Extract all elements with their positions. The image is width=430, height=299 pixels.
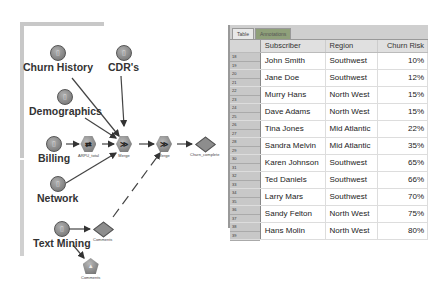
database-source-icon: ▯ <box>50 45 66 61</box>
database-source-icon: ▯ <box>46 136 62 152</box>
column-header-subscriber[interactable]: Subscriber <box>261 40 326 52</box>
cell-churn-risk: 10% <box>378 53 428 69</box>
source-node-churn-history[interactable]: ▯ Churn History <box>23 45 93 73</box>
table-row[interactable]: 2829Sandra MelvinMid Atlantic35% <box>230 138 428 155</box>
row-numbers: 3637 <box>230 206 261 222</box>
source-node-demographics[interactable]: ▯ Demographics <box>29 89 102 117</box>
cell-subscriber: Hans Molin <box>261 223 326 239</box>
cell-churn-risk: 80% <box>378 223 428 239</box>
table-row[interactable]: 1819John SmithSouthwest10% <box>230 53 428 70</box>
model-node-comments[interactable]: Comments <box>93 222 112 242</box>
row-numbers: 3839 <box>230 223 261 239</box>
cell-subscriber: Tina Jones <box>261 121 326 137</box>
merge-node-2[interactable]: ≫ Merge <box>156 136 172 158</box>
table-output-window: Table Annotations Subscriber Region Chur… <box>228 25 428 228</box>
cell-region: Mid Atlantic <box>326 138 379 154</box>
cell-region: Southwest <box>326 70 379 86</box>
cell-region: North West <box>326 104 379 120</box>
cell-subscriber: Karen Johnson <box>261 155 326 171</box>
source-node-cdrs[interactable]: ▯ CDR's <box>108 45 139 73</box>
cell-churn-risk: 15% <box>378 87 428 103</box>
cell-churn-risk: 65% <box>378 155 428 171</box>
cell-region: North West <box>326 206 379 222</box>
table-row[interactable]: 3435Larry MarsSouthwest70% <box>230 189 428 206</box>
column-header-churn-risk[interactable]: Churn Risk <box>378 40 428 52</box>
row-numbers: 3233 <box>230 172 261 188</box>
tab-table[interactable]: Table <box>232 28 254 39</box>
cell-region: Southwest <box>326 155 379 171</box>
table-row[interactable]: 3637Sandy FeltonNorth West75% <box>230 206 428 223</box>
table-row[interactable]: 2021Jane DoeSouthwest12% <box>230 70 428 87</box>
cell-subscriber: Dave Adams <box>261 104 326 120</box>
model-nugget-icon <box>95 222 111 236</box>
row-numbers: 3031 <box>230 155 261 171</box>
table-row[interactable]: 3839Hans MolinNorth West80% <box>230 223 428 240</box>
cell-subscriber: John Smith <box>261 53 326 69</box>
cell-region: Southwest <box>326 189 379 205</box>
cell-churn-risk: 22% <box>378 121 428 137</box>
row-numbers: 1819 <box>230 53 261 69</box>
source-node-text-mining[interactable]: ▯ Text Mining <box>33 221 91 249</box>
database-source-icon: ▯ <box>57 89 73 105</box>
table-row[interactable]: 2223Murry HansNorth West15% <box>230 87 428 104</box>
table-row[interactable]: 3233Ted DanielsSouthwest66% <box>230 172 428 189</box>
cell-churn-risk: 15% <box>378 104 428 120</box>
merge-icon: ≫ <box>116 136 132 152</box>
graph-output-icon: ▲ <box>83 258 99 274</box>
database-source-icon: ▯ <box>50 176 66 192</box>
table-body: 1819John SmithSouthwest10% 2021Jane DoeS… <box>230 53 428 240</box>
database-source-icon: ▯ <box>54 221 70 237</box>
source-node-billing[interactable]: ▯ Billing <box>38 136 70 164</box>
cell-subscriber: Sandy Felton <box>261 206 326 222</box>
table-header: Subscriber Region Churn Risk <box>230 40 428 53</box>
row-numbers: 2021 <box>230 70 261 86</box>
database-source-icon: ▯ <box>116 45 132 61</box>
cell-region: Southwest <box>326 172 379 188</box>
row-numbers: 3435 <box>230 189 261 205</box>
tab-annotations[interactable]: Annotations <box>255 28 291 39</box>
graph-node-comments[interactable]: ▲ Comments <box>81 258 100 280</box>
cell-subscriber: Jane Doe <box>261 70 326 86</box>
cell-churn-risk: 66% <box>378 172 428 188</box>
cell-region: North West <box>326 87 379 103</box>
cell-subscriber: Larry Mars <box>261 189 326 205</box>
cell-churn-risk: 12% <box>378 70 428 86</box>
model-nugget-icon <box>197 137 213 151</box>
merge-node-1[interactable]: ≫ Merge <box>116 136 132 158</box>
row-numbers: 2627 <box>230 121 261 137</box>
cell-churn-risk: 75% <box>378 206 428 222</box>
model-node-churn-complete[interactable]: Churn_complete <box>190 137 219 157</box>
derive-node-arpu[interactable]: ⇄ ARPU_total <box>78 136 99 158</box>
cell-subscriber: Sandra Melvin <box>261 138 326 154</box>
derive-icon: ⇄ <box>80 136 96 152</box>
cell-region: North West <box>326 223 379 239</box>
table-row[interactable]: 2425Dave AdamsNorth West15% <box>230 104 428 121</box>
tab-bar: Table Annotations <box>230 25 428 40</box>
table-row[interactable]: 3031Karen JohnsonSouthwest65% <box>230 155 428 172</box>
source-node-network[interactable]: ▯ Network <box>37 176 78 204</box>
cell-region: Southwest <box>326 53 379 69</box>
row-number-header <box>230 40 261 52</box>
row-numbers: 2829 <box>230 138 261 154</box>
cell-region: Mid Atlantic <box>326 121 379 137</box>
row-numbers: 2223 <box>230 87 261 103</box>
cell-subscriber: Ted Daniels <box>261 172 326 188</box>
cell-churn-risk: 70% <box>378 189 428 205</box>
column-header-region[interactable]: Region <box>326 40 379 52</box>
merge-icon: ≫ <box>156 136 172 152</box>
cell-churn-risk: 35% <box>378 138 428 154</box>
row-numbers: 2425 <box>230 104 261 120</box>
cell-subscriber: Murry Hans <box>261 87 326 103</box>
table-row[interactable]: 2627Tina JonesMid Atlantic22% <box>230 121 428 138</box>
